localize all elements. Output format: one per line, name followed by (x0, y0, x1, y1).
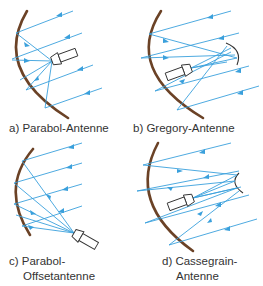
panel-offset-parabolic-antenna: c) Parabol- Offsetantenne (0, 143, 131, 286)
subreflector-convex (235, 173, 243, 193)
feed-horn-icon (165, 62, 194, 82)
feed-horn-icon (71, 228, 100, 251)
feed-horn-icon (50, 46, 79, 66)
caption-parabolic: a) Parabol-Antenne (9, 122, 109, 135)
panel-cassegrain-antenna: d) Cassegrain- Antenne (131, 143, 263, 286)
caption-cassegrain-line2: Antenne (176, 270, 219, 283)
panel-gregory-antenna: b) Gregory-Antenne (131, 0, 263, 143)
caption-offset-line2: Offsetantenne (23, 270, 95, 283)
caption-gregory: b) Gregory-Antenne (133, 122, 235, 135)
panel-parabolic-antenna: a) Parabol-Antenne (0, 0, 131, 143)
main-reflector (16, 11, 68, 118)
caption-offset-line1: c) Parabol- (9, 255, 65, 268)
caption-cassegrain-line1: d) Cassegrain- (162, 255, 237, 268)
main-reflector (149, 11, 203, 118)
